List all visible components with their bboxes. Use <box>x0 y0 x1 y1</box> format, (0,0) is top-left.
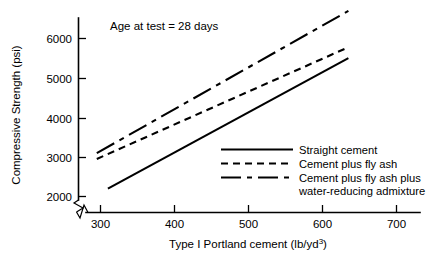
chart-annotation: Age at test = 28 days <box>110 20 219 32</box>
y-axis-title: Compressive Strength (psi) <box>10 45 22 184</box>
series-line-cement-fly-ash-admixture <box>97 11 349 153</box>
series-line-cement-plus-fly-ash <box>97 47 349 159</box>
y-tick-label-5000: 5000 <box>46 73 72 85</box>
x-axis-title: Type I Portland cement (lb/yd3) <box>169 237 327 250</box>
chart-page: 6000 5000 4000 3000 2000 300 400 500 600… <box>0 0 433 257</box>
legend: Straight cement Cement plus fly ash Ceme… <box>221 144 425 197</box>
y-axis-break-icon <box>74 200 83 212</box>
x-tick-label-300: 300 <box>91 218 110 230</box>
y-tick-labels-group: 6000 5000 4000 3000 2000 <box>46 33 72 203</box>
y-tick-label-6000: 6000 <box>46 33 72 45</box>
y-tick-label-4000: 4000 <box>46 113 72 125</box>
legend-label-cement-plus-fly-ash: Cement plus fly ash <box>299 158 397 170</box>
legend-label-cement-fly-ash-admixture-line1: Cement plus fly ash plus <box>299 172 421 184</box>
y-tick-label-2000: 2000 <box>46 191 72 203</box>
x-ticks-group <box>101 205 397 213</box>
x-tick-label-600: 600 <box>313 218 332 230</box>
chart-canvas: 6000 5000 4000 3000 2000 300 400 500 600… <box>0 0 433 257</box>
y-tick-label-3000: 3000 <box>46 152 72 164</box>
x-tick-label-400: 400 <box>165 218 184 230</box>
y-ticks-group <box>79 39 87 197</box>
x-axis-title-tail: ) <box>323 238 327 250</box>
legend-label-straight-cement: Straight cement <box>299 144 378 156</box>
x-tick-label-700: 700 <box>387 218 406 230</box>
x-tick-label-500: 500 <box>239 218 258 230</box>
x-axis-title-main: Type I Portland cement (lb/yd <box>169 238 319 250</box>
x-tick-labels-group: 300 400 500 600 700 <box>91 218 406 230</box>
legend-label-cement-fly-ash-admixture-line2: water-reducing admixture <box>298 185 425 197</box>
